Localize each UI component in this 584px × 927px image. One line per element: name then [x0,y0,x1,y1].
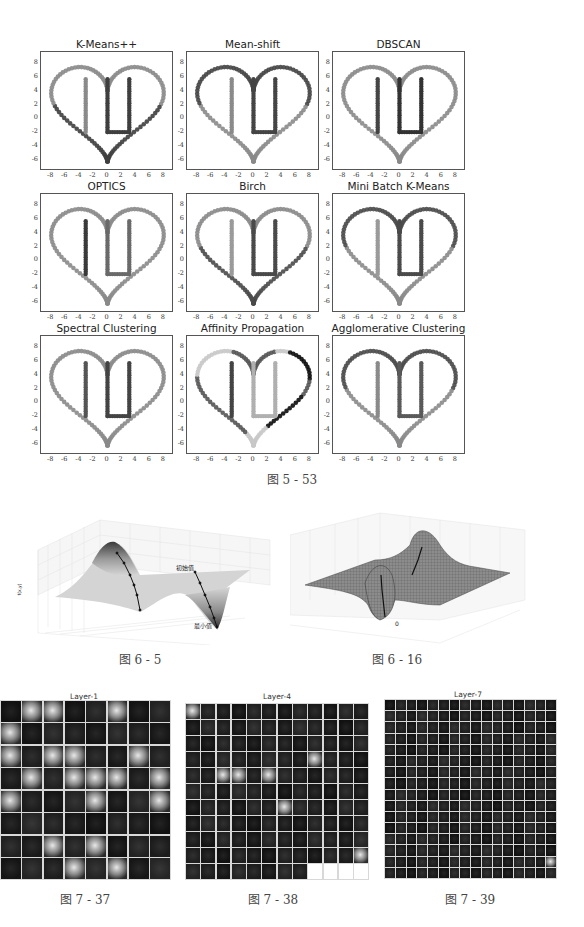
y-tick-label: -2 [172,411,184,419]
feature-map-cell [439,734,449,744]
feature-map-cell [150,701,170,722]
feature-map-cell [493,722,503,732]
y-tick-label: -4 [172,283,184,291]
surface-plot-6-5-graphic [0,505,290,645]
feature-map-cell [385,823,395,833]
feature-map-cell [428,745,438,755]
y-tick-label: -2 [318,269,330,277]
feature-map-cell [232,800,246,815]
feature-map-cell [536,734,546,744]
feature-map-cell [471,778,481,788]
feature-map-cell [396,700,406,710]
feature-map-cell [65,768,85,789]
feature-map-cell [525,845,535,855]
feature-map-cell [324,800,338,815]
x-tick-label: 8 [302,455,316,463]
feature-map-cell [293,864,307,879]
feature-map-cell [217,736,231,751]
feature-map-cell [129,701,149,722]
feature-map-cell [385,745,395,755]
feature-map-cell [65,813,85,834]
feature-map-cell [460,801,470,811]
scatter-plot-area [40,335,173,454]
feature-map-cell [503,834,513,844]
feature-map-cell [450,823,460,833]
x-tick-label: 6 [142,313,156,321]
y-tick-label: -2 [172,127,184,135]
feature-map-cell [262,720,276,735]
x-tick-label: 6 [434,455,448,463]
feature-map-cell [546,778,556,788]
feature-map-cell [1,813,21,834]
feature-map-cell [217,848,231,863]
x-tick-label: 8 [448,455,462,463]
feature-map-cell [65,836,85,857]
feature-map-cell [396,711,406,721]
scatter-plot-area [332,335,465,454]
feature-map-cell [417,801,427,811]
feature-map-cell [354,704,368,719]
feature-map-cell [232,720,246,735]
feature-map-cell [396,756,406,766]
feature-map-cell [417,790,427,800]
scatter-plot-graphic [41,336,174,455]
feature-map-cell [503,700,513,710]
feature-map-cell [150,723,170,744]
feature-map-cell [503,857,513,867]
y-tick-label: 0 [172,397,184,405]
feature-map-cell [201,816,215,831]
scatter-plot-area [332,193,465,312]
figure-6-5-surface-plot: 初始值 最小值 f(x,y) [0,505,290,645]
x-tick-label: 2 [114,171,128,179]
y-tick-label: 6 [26,214,38,222]
feature-map-cell [514,868,524,878]
scatter-panel-title: K-Means++ [37,38,177,50]
scatter-panel-title: DBSCAN [329,38,469,50]
feature-map-cell [482,756,492,766]
feature-map-cell [471,801,481,811]
feature-map-cell [396,857,406,867]
feature-map-cell [417,778,427,788]
feature-map-cell [293,784,307,799]
feature-map-cell [129,723,149,744]
x-tick-label: -4 [71,455,85,463]
figure-caption-7-37: 图 7 - 37 [35,890,135,907]
feature-map-cell [503,868,513,878]
x-tick-label: -6 [349,313,363,321]
y-tick-label: 8 [26,342,38,350]
feature-map-cell [503,734,513,744]
feature-map-cell [232,832,246,847]
feature-map-cell [217,800,231,815]
x-tick-label: 2 [406,455,420,463]
feature-map-cell [354,784,368,799]
feature-map-cell [428,845,438,855]
feature-map-cell [247,800,261,815]
feature-map-cell [217,752,231,767]
feature-map-cell [308,832,322,847]
x-tick-label: -4 [71,313,85,321]
feature-map-cell [217,832,231,847]
feature-map-cell [536,756,546,766]
feature-map-cell [546,868,556,878]
x-tick-label: -4 [363,455,377,463]
x-tick-label: 6 [434,171,448,179]
feature-map-cell [308,752,322,767]
feature-map-cell [278,720,292,735]
feature-map-cell [22,836,42,857]
feature-map-cell [471,834,481,844]
feature-map-cell [129,746,149,767]
feature-map-cell [201,768,215,783]
feature-map-cell [482,868,492,878]
feature-map-cell [339,832,353,847]
feature-map-cell [482,734,492,744]
layer-7-feature-map-grid [384,699,557,879]
feature-map-cell [450,845,460,855]
layer-4-feature-map-grid [185,703,369,880]
feature-map-cell [407,790,417,800]
feature-map-cell [108,723,128,744]
feature-map-cell [482,767,492,777]
feature-map-cell [396,812,406,822]
feature-map-cell [186,784,200,799]
feature-map-cell [186,848,200,863]
feature-map-cell [1,836,21,857]
